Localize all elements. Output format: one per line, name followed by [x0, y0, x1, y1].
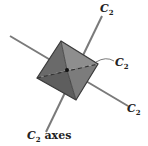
- label-c2-middle: C2: [115, 57, 129, 70]
- label-c2-lower: C2: [127, 103, 141, 116]
- leader-line: [96, 59, 114, 62]
- label-c2-top: C2: [100, 3, 114, 16]
- c2-axes-diagram: [0, 0, 148, 146]
- octahedron: [37, 41, 98, 100]
- caption-c2-axes: C2 axes: [27, 130, 71, 143]
